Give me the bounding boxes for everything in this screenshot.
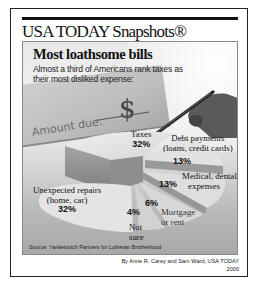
byline: By Anne R. Carey and Sam Ward, USA TODAY… (121, 258, 239, 273)
byline-year: 2000 (121, 266, 239, 274)
label-medical: 13% Medical, dental expenses (159, 172, 237, 191)
label-medical-name: Medical, dental expenses (182, 172, 237, 191)
label-taxes: Taxes 32% (131, 130, 151, 149)
chart-panel: $ Amount due: Most loathsome bills Almos… (22, 41, 238, 255)
label-taxes-pct: 32% (131, 140, 151, 150)
label-repairs-pct: 32% (33, 205, 101, 215)
source-note: Source: Yankelovich Partners for Luthera… (29, 244, 161, 250)
label-debt-pct: 13% (173, 156, 191, 166)
label-notsure-pct: 4% (127, 207, 140, 217)
label-mortgage-name2: or rent (161, 218, 195, 228)
label-notsure: Not sure (129, 223, 144, 242)
label-debt: Debt payments (loans, credit cards) (163, 134, 233, 153)
label-medical-name1: Medical, dental (182, 171, 237, 181)
label-mortgage-pct: 6% (145, 198, 158, 208)
brand-title: USA TODAY Snapshots® (22, 22, 186, 42)
label-notsure-name2: sure (129, 233, 144, 243)
label-repairs: Unexpected repairs (home, car) 32% (33, 186, 101, 215)
header-rule (22, 17, 238, 20)
label-medical-name2: expenses (182, 181, 220, 191)
byline-authors: By Anne R. Carey and Sam Ward, USA TODAY (121, 258, 239, 266)
label-mortgage: Mortgage or rent (161, 208, 195, 227)
label-medical-pct: 13% (159, 179, 177, 189)
label-debt-sub: (loans, credit cards) (163, 144, 233, 154)
